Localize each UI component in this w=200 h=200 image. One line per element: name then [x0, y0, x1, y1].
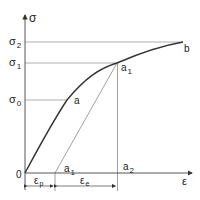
sigma2-subscript: 2: [17, 41, 21, 50]
plastic-strain-symbol: ε: [34, 175, 38, 186]
sigma1-subscript: 1: [17, 62, 21, 71]
plastic-strain-subscript: p: [39, 180, 43, 187]
plastic-strain-label: εp: [34, 176, 43, 186]
sigma0-subscript: 0: [17, 99, 21, 108]
point-a-label: a: [74, 96, 80, 106]
sigma2-symbol: σ: [9, 35, 16, 47]
y-axis-label: σ: [29, 12, 36, 24]
stress-strain-diagram: [0, 0, 200, 200]
x-axis-label: ε: [182, 176, 187, 187]
a1-upper-subscript: 1: [128, 67, 132, 76]
a1-lower-letter: a: [64, 163, 70, 174]
a1-lower-subscript: 1: [71, 168, 75, 177]
point-a1-lower-label: a1: [64, 164, 75, 174]
origin-label: 0: [16, 170, 22, 180]
point-b-label: b: [184, 44, 190, 54]
sigma1-symbol: σ: [9, 56, 16, 68]
a2-letter: a: [123, 161, 129, 172]
stress-strain-curve: [25, 42, 183, 173]
point-a2-label: a2: [123, 162, 134, 172]
elastic-strain-symbol: ε: [80, 175, 84, 186]
a2-subscript: 2: [130, 166, 134, 175]
a1-upper-letter: a: [121, 62, 127, 73]
sigma1-label: σ1: [9, 57, 21, 68]
sigma0-symbol: σ: [9, 93, 16, 105]
sigma0-label: σ0: [9, 94, 21, 105]
point-a1-upper-label: a1: [121, 63, 132, 73]
elastic-strain-subscript: e: [85, 180, 89, 187]
elastic-strain-label: εe: [80, 176, 89, 186]
sigma2-label: σ2: [9, 36, 21, 47]
